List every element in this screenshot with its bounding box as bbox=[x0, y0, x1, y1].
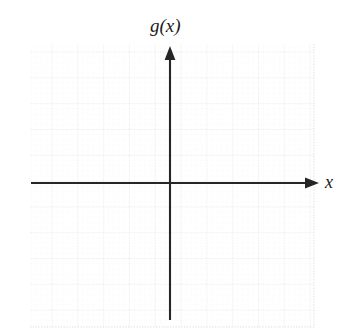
coordinate-plane bbox=[0, 0, 342, 336]
grid-layer bbox=[30, 44, 314, 327]
y-axis-label: g(x) bbox=[150, 16, 181, 35]
grid-area bbox=[30, 44, 314, 327]
graph-figure: g(x) x bbox=[0, 0, 342, 336]
x-axis-label: x bbox=[325, 173, 333, 191]
